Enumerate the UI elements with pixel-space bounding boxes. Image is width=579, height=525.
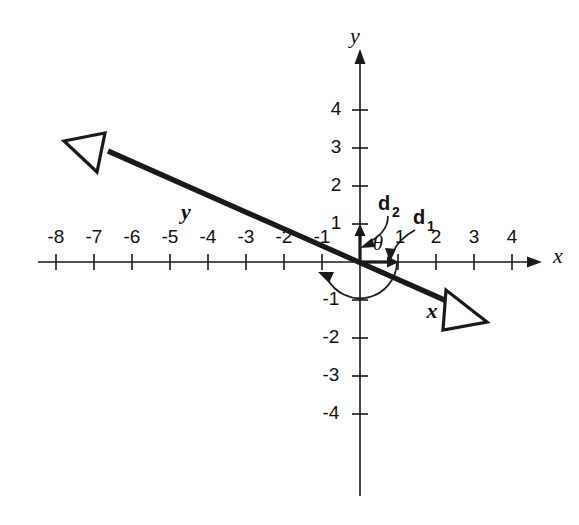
rotated-axis-arrowhead-upper-left-icon <box>64 133 105 172</box>
y-axis-arrowhead-icon <box>355 49 366 64</box>
theta-angle-label: θ <box>373 231 383 255</box>
axes-group <box>38 49 542 496</box>
d1-label-subscript: 1 <box>427 218 435 234</box>
d2-label-base: d <box>378 192 390 214</box>
y-tick-label: 4 <box>331 98 342 119</box>
x-tick-label: 1 <box>395 226 406 247</box>
figure-root: -8 -7 -6 -5 -4 -3 -2 -1 1 2 3 4 4 <box>0 0 579 525</box>
rotated-y-axis-name-label: y <box>178 199 191 224</box>
rotated-x-axis-name-label: x <box>426 298 438 323</box>
x-tick-label: -3 <box>238 226 255 247</box>
y-tick-label: -4 <box>323 402 340 423</box>
y-tick-label: 3 <box>331 136 342 157</box>
basis-vector-d2 <box>355 224 366 262</box>
x-tick-label: -4 <box>200 226 217 247</box>
x-axis-arrowhead-icon <box>527 257 542 268</box>
x-tick-label: -8 <box>48 226 65 247</box>
y-axis-tick-labels: 4 3 2 1 -1 -2 -3 -4 <box>323 98 342 423</box>
theta-arc-arrowhead-icon <box>318 272 334 283</box>
x-tick-label: -5 <box>162 226 179 247</box>
x-tick-label: 4 <box>507 226 518 247</box>
d2-label-subscript: 2 <box>392 204 400 220</box>
x-axis-name-label: x <box>552 243 563 268</box>
y-tick-label: -3 <box>323 364 340 385</box>
rotated-axis-line <box>108 151 458 306</box>
y-tick-label: 2 <box>331 174 342 195</box>
coordinate-plane-figure: -8 -7 -6 -5 -4 -3 -2 -1 1 2 3 4 4 <box>0 0 579 525</box>
d2-vector-arrowhead-icon <box>355 224 366 236</box>
y-tick-label: 1 <box>331 212 342 233</box>
x-tick-label: 3 <box>469 226 480 247</box>
x-tick-label: -7 <box>86 226 103 247</box>
rotated-axis-arrowhead-lower-right-icon <box>443 290 487 330</box>
x-tick-label: -6 <box>124 226 141 247</box>
d1-label-base: d <box>413 206 425 228</box>
y-tick-label: -2 <box>323 326 340 347</box>
y-axis-name-label: y <box>348 23 360 48</box>
